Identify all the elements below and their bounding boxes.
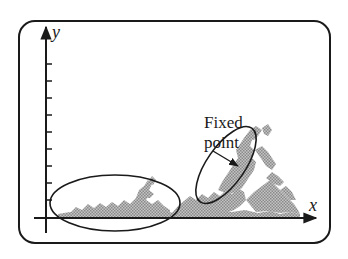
- annotation-line-2: point: [204, 133, 239, 152]
- x-axis-label: x: [308, 195, 317, 215]
- fixed-point-diagram: y x Fixed point: [0, 0, 348, 259]
- annotation-arrow: [213, 151, 238, 166]
- annotation-line-1: Fixed: [204, 113, 243, 132]
- y-axis-label: y: [50, 22, 60, 42]
- fractal-region: [58, 124, 300, 217]
